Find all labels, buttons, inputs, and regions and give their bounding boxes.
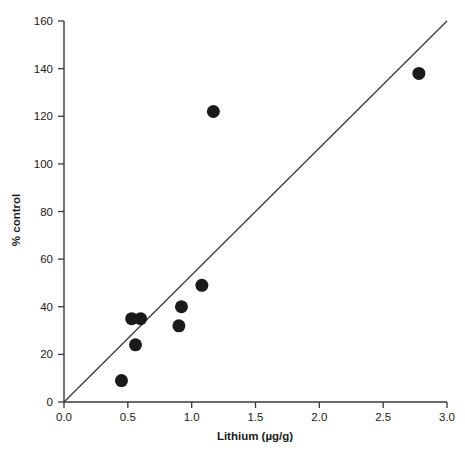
x-tick-label: 1.5 xyxy=(248,411,264,423)
x-axis-ticks: 0.00.51.01.52.02.53.0 xyxy=(56,402,455,423)
data-point xyxy=(412,67,425,80)
y-tick-label: 80 xyxy=(40,206,53,218)
x-tick-label: 2.5 xyxy=(375,411,391,423)
y-tick-label: 60 xyxy=(40,253,53,265)
data-point xyxy=(175,300,188,313)
data-point xyxy=(172,319,185,332)
data-point xyxy=(134,312,147,325)
scatter-plot-figure: 020406080100120140160 0.00.51.01.52.02.5… xyxy=(0,0,465,453)
reference-line-group xyxy=(64,21,447,402)
y-tick-label: 20 xyxy=(40,348,53,360)
data-points-group xyxy=(115,67,425,387)
data-point xyxy=(129,338,142,351)
y-tick-label: 160 xyxy=(34,15,53,27)
y-tick-label: 140 xyxy=(34,63,53,75)
x-tick-label: 1.0 xyxy=(184,411,200,423)
x-tick-label: 0.0 xyxy=(56,411,72,423)
reference-line xyxy=(64,21,447,402)
y-tick-label: 120 xyxy=(34,110,53,122)
plot-canvas: 020406080100120140160 0.00.51.01.52.02.5… xyxy=(0,0,465,453)
x-tick-label: 2.0 xyxy=(311,411,327,423)
x-axis-title: Lithium (µg/g) xyxy=(217,430,293,442)
data-point xyxy=(195,279,208,292)
y-tick-label: 0 xyxy=(47,396,53,408)
y-axis-title: % control xyxy=(10,194,22,246)
x-tick-label: 3.0 xyxy=(439,411,455,423)
y-tick-label: 40 xyxy=(40,301,53,313)
x-tick-label: 0.5 xyxy=(120,411,136,423)
y-tick-label: 100 xyxy=(34,158,53,170)
data-point xyxy=(207,105,220,118)
data-point xyxy=(115,374,128,387)
y-axis-ticks: 020406080100120140160 xyxy=(34,15,64,408)
